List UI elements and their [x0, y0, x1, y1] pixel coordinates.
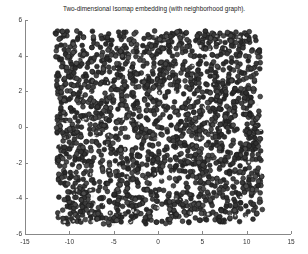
y-tick-label: -6 [8, 230, 22, 237]
y-tick-label: 2 [8, 87, 22, 94]
x-tick-label: -10 [59, 238, 79, 245]
y-tick-label: -4 [8, 194, 22, 201]
x-tick-label: 5 [192, 238, 212, 245]
x-tick-label: 0 [148, 238, 168, 245]
scatter-plot-area [0, 0, 308, 254]
x-tick-label: -15 [15, 238, 35, 245]
y-tick-label: 0 [8, 123, 22, 130]
x-tick-label: 10 [237, 238, 257, 245]
x-tick-label: -5 [104, 238, 124, 245]
y-tick-label: 4 [8, 52, 22, 59]
x-tick-label: 15 [281, 238, 301, 245]
y-tick-label: -2 [8, 159, 22, 166]
y-tick-label: 6 [8, 16, 22, 23]
